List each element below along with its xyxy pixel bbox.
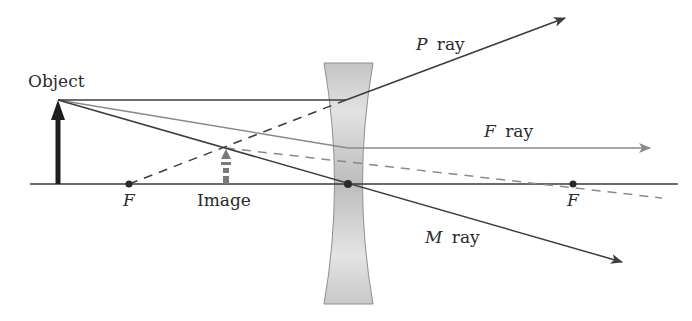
focal-label-left: F [122, 190, 136, 210]
focal-point-left [126, 181, 133, 188]
focal-label-right: F [566, 190, 580, 210]
p-ray-word: ray [437, 34, 465, 54]
f-ray-word: ray [505, 121, 533, 141]
image-label: Image [197, 190, 251, 210]
focal-point-right [570, 181, 577, 188]
image-arrow [221, 149, 231, 184]
f-ray-label: F ray [483, 121, 533, 141]
lens-center-point [344, 180, 352, 188]
f-ray-letter: F [483, 121, 497, 141]
p-ray-refracted [346, 18, 565, 100]
p-ray-label: P ray [415, 34, 465, 54]
f-ray-extension-dashed [226, 148, 662, 198]
object-arrow-head [51, 100, 65, 120]
m-ray-word: ray [452, 227, 480, 247]
f-ray-incident [58, 100, 348, 148]
object-label: Object [28, 71, 85, 91]
m-ray-label: M ray [424, 227, 480, 247]
m-ray-letter: M [424, 227, 443, 247]
diverging-lens-ray-diagram: Object Image F F P ray F ray M ray [0, 0, 692, 321]
p-ray-letter: P [415, 34, 428, 54]
